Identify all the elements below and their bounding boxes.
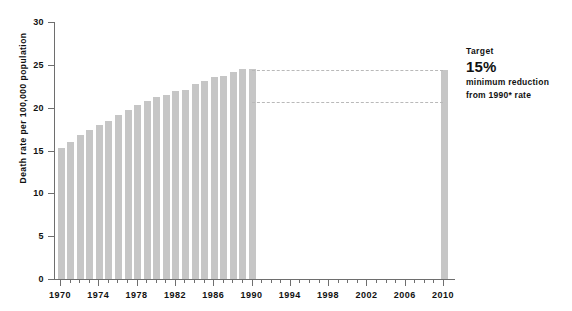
bar	[86, 130, 93, 279]
x-tick-minor	[108, 279, 109, 283]
x-tick-major	[175, 279, 176, 286]
x-tick-minor	[376, 279, 377, 283]
x-tick-minor	[204, 279, 205, 283]
x-tick-major	[137, 279, 138, 286]
bar	[134, 105, 141, 279]
x-tick-minor	[338, 279, 339, 283]
x-tick-major	[405, 279, 406, 286]
bar	[211, 77, 218, 279]
y-axis-line	[54, 22, 55, 280]
bar	[125, 110, 132, 279]
x-tick-minor	[232, 279, 233, 283]
x-tick-label: 2002	[355, 290, 377, 300]
bar	[105, 121, 112, 279]
x-tick-minor	[414, 279, 415, 283]
x-tick-label: 1998	[317, 290, 339, 300]
y-tick	[48, 279, 54, 280]
target-callout-desc-line2: from 1990* rate	[466, 89, 570, 102]
x-tick-minor	[357, 279, 358, 283]
x-tick-label: 2006	[394, 290, 416, 300]
bar	[67, 142, 74, 279]
bar	[249, 69, 256, 279]
x-tick-minor	[127, 279, 128, 283]
x-tick-minor	[271, 279, 272, 283]
x-tick-major	[366, 279, 367, 286]
y-tick	[48, 108, 54, 109]
reference-line	[252, 70, 444, 71]
bar	[144, 101, 151, 279]
x-tick-major	[98, 279, 99, 286]
bar	[230, 72, 237, 279]
x-tick-minor	[386, 279, 387, 283]
x-tick-major	[290, 279, 291, 286]
x-tick-minor	[261, 279, 262, 283]
x-tick-minor	[117, 279, 118, 283]
x-tick-label: 1994	[279, 290, 301, 300]
x-tick-label: 1986	[202, 290, 224, 300]
x-tick-minor	[347, 279, 348, 283]
x-tick-label: 1990	[240, 290, 262, 300]
x-tick-label: 2010	[432, 290, 454, 300]
target-callout-percent: 15%	[466, 57, 570, 76]
x-tick-minor	[184, 279, 185, 283]
x-tick-minor	[433, 279, 434, 283]
y-tick	[48, 151, 54, 152]
y-tick	[48, 65, 54, 66]
x-tick-minor	[280, 279, 281, 283]
y-tick	[48, 22, 54, 23]
x-tick-minor	[70, 279, 71, 283]
bar	[153, 97, 160, 279]
y-tick	[48, 193, 54, 194]
x-tick-minor	[165, 279, 166, 283]
bar	[172, 91, 179, 279]
x-tick-minor	[309, 279, 310, 283]
x-tick-label: 1982	[164, 290, 186, 300]
bar	[182, 90, 189, 279]
x-tick-major	[328, 279, 329, 286]
x-tick-major	[443, 279, 444, 286]
x-tick-major	[60, 279, 61, 286]
x-tick-label: 1974	[87, 290, 109, 300]
x-tick-minor	[319, 279, 320, 283]
bar	[239, 69, 246, 279]
bar	[201, 81, 208, 279]
x-tick-minor	[242, 279, 243, 283]
y-tick	[48, 236, 54, 237]
x-tick-minor	[156, 279, 157, 283]
x-tick-minor	[299, 279, 300, 283]
x-tick-minor	[146, 279, 147, 283]
x-tick-label: 1970	[49, 290, 71, 300]
bar	[96, 125, 103, 279]
bar	[58, 148, 65, 279]
x-tick-minor	[194, 279, 195, 283]
bar	[163, 95, 170, 279]
target-callout: Target 15% minimum reduction from 1990* …	[466, 45, 570, 102]
x-tick-minor	[89, 279, 90, 283]
x-tick-major	[252, 279, 253, 286]
chart-container: Death rate per 100,000 population 051015…	[0, 0, 572, 311]
bar	[220, 76, 227, 279]
x-tick-minor	[395, 279, 396, 283]
x-tick-major	[213, 279, 214, 286]
reference-line	[252, 102, 444, 103]
x-tick-minor	[79, 279, 80, 283]
bar	[192, 84, 199, 279]
target-callout-heading: Target	[466, 45, 570, 57]
target-callout-desc-line1: minimum reduction	[466, 76, 570, 89]
x-tick-minor	[223, 279, 224, 283]
bar	[77, 135, 84, 279]
x-tick-label: 1978	[126, 290, 148, 300]
bar	[115, 115, 122, 279]
x-tick-minor	[424, 279, 425, 283]
